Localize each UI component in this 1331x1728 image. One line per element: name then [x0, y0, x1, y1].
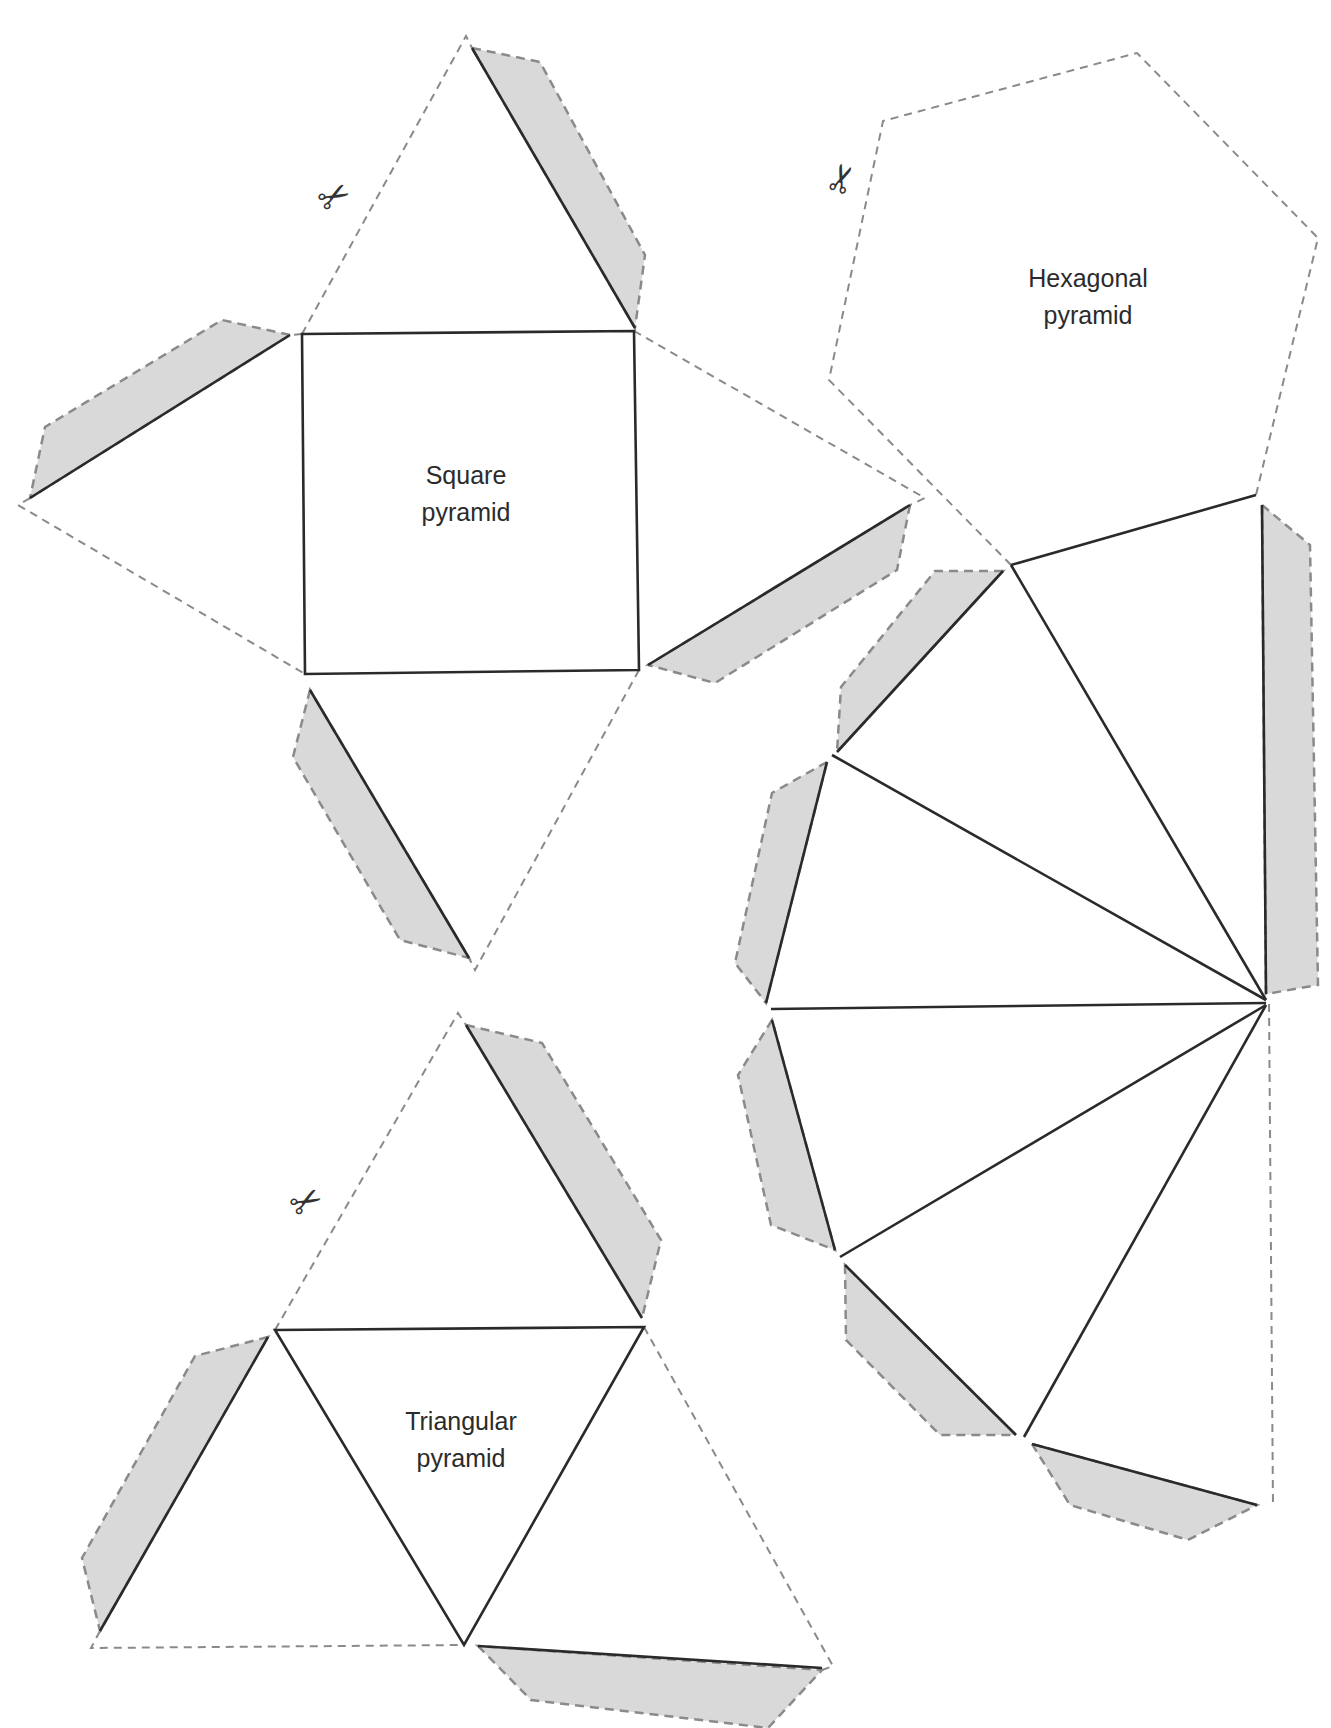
- label-line: pyramid: [405, 1440, 517, 1477]
- hexagonal-pyramid-net: [735, 53, 1318, 1540]
- glue-tab: [1032, 1444, 1257, 1540]
- cut-line: [644, 1327, 833, 1670]
- glue-tab: [30, 320, 290, 498]
- glue-tab: [735, 762, 827, 1003]
- cut-line: [275, 1013, 466, 1330]
- label-line: pyramid: [1028, 297, 1148, 334]
- cut-line: [91, 1631, 464, 1648]
- label-line: pyramid: [422, 494, 511, 531]
- label-line: Hexagonal: [1028, 260, 1148, 297]
- triangular-pyramid-label: Triangular pyramid: [405, 1403, 517, 1477]
- glue-tab: [466, 1025, 661, 1318]
- glue-tab: [82, 1337, 268, 1631]
- cut-line: [290, 334, 302, 335]
- glue-tab: [738, 1020, 835, 1250]
- square-pyramid-label: Square pyramid: [422, 457, 511, 531]
- cut-line: [469, 670, 639, 970]
- label-line: Square: [422, 457, 511, 494]
- label-line: Triangular: [405, 1403, 517, 1440]
- cut-line: [634, 331, 925, 505]
- triangular-pyramid-net: [82, 1013, 833, 1728]
- cut-line: [18, 498, 305, 674]
- glue-tab: [293, 690, 469, 958]
- base-triangle: [275, 1327, 644, 1645]
- glue-tab: [1262, 505, 1318, 994]
- hexagonal-pyramid-label: Hexagonal pyramid: [1028, 260, 1148, 334]
